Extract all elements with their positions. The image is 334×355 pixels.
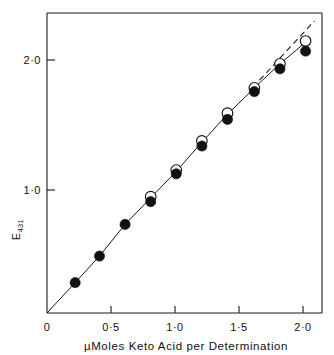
data-point-filled [120,219,130,229]
x-axis-ticks [111,306,303,313]
data-point-filled [222,114,232,124]
x-tick-label-3: 1·5 [230,321,247,333]
y-tick-label-1: 2·0 [24,54,41,66]
y-tick-label-0: 1·0 [24,184,41,196]
data-point-filled [275,64,285,74]
x-tick-label-0: 0 [44,321,51,333]
data-point-filled [300,46,310,56]
y-axis-title-base: E [10,233,22,240]
svg-text:E431: E431 [10,219,25,240]
data-point-filled [94,251,104,261]
x-axis-title: µMoles Keto Acid per Determination [84,340,288,352]
data-point-filled [171,169,181,179]
filled-circle-series [70,46,311,288]
data-point-filled [70,278,80,288]
x-tick-label-1: 0·5 [102,321,119,333]
data-point-filled [249,87,259,97]
chart-svg: 0 0·5 1·0 1·5 2·0 1·0 2·0 E431 µMoles Ke… [0,0,334,355]
y-axis-ticks [47,60,55,190]
chart-figure: 0 0·5 1·0 1·5 2·0 1·0 2·0 E431 µMoles Ke… [0,0,334,355]
y-axis-title-subscript: 431 [16,219,25,233]
y-axis-title: E431 [10,219,25,240]
x-tick-label-2: 1·0 [166,321,183,333]
data-point-filled [197,141,207,151]
data-point-filled [146,197,156,207]
data-point-open [300,36,311,47]
x-tick-label-4: 2·0 [294,321,311,333]
